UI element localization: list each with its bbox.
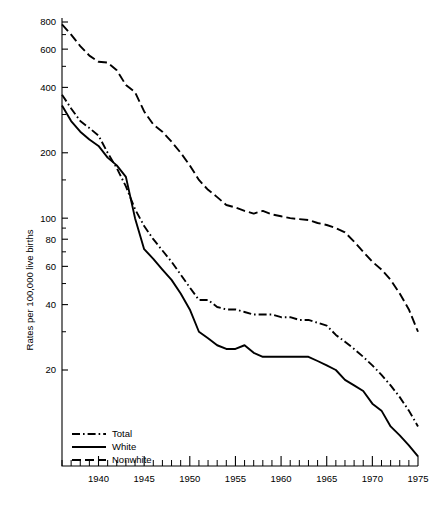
series-line-white — [62, 106, 418, 457]
line-chart: 80060040020010080604020 1940194519501955… — [0, 0, 429, 523]
legend-label-nonwhite: Nonwhite — [112, 454, 152, 465]
y-axis-major-ticks — [62, 22, 68, 370]
y-tick-label: 200 — [40, 147, 56, 158]
chart-series — [62, 24, 418, 456]
x-tick-label: 1965 — [316, 473, 337, 484]
y-tick-label: 60 — [45, 261, 56, 272]
x-tick-label: 1955 — [225, 473, 246, 484]
x-tick-label: 1960 — [271, 473, 292, 484]
y-axis-tick-labels: 80060040020010080604020 — [40, 16, 56, 375]
y-axis-minor-ticks — [62, 35, 66, 332]
series-line-total — [62, 95, 418, 427]
y-tick-label: 600 — [40, 44, 56, 55]
y-axis-title: Rates per 100,000 live births — [24, 229, 35, 350]
x-tick-label: 1940 — [88, 473, 109, 484]
axis-lines — [62, 18, 418, 466]
y-tick-label: 400 — [40, 82, 56, 93]
x-tick-label: 1945 — [134, 473, 155, 484]
chart-legend: TotalWhiteNonwhite — [72, 428, 152, 465]
legend-label-total: Total — [112, 428, 132, 439]
x-tick-label: 1950 — [179, 473, 200, 484]
y-tick-label: 40 — [45, 299, 56, 310]
x-axis-tick-labels: 19401945195019551960196519701975 — [88, 473, 429, 484]
y-tick-label: 20 — [45, 364, 56, 375]
x-tick-label: 1970 — [362, 473, 383, 484]
chart-container: 80060040020010080604020 1940194519501955… — [0, 0, 429, 523]
y-tick-label: 100 — [40, 213, 56, 224]
series-line-nonwhite — [62, 24, 418, 331]
x-tick-label: 1975 — [407, 473, 428, 484]
y-tick-label: 80 — [45, 234, 56, 245]
legend-label-white: White — [112, 441, 136, 452]
y-tick-label: 800 — [40, 16, 56, 27]
chart-axes — [62, 18, 418, 466]
